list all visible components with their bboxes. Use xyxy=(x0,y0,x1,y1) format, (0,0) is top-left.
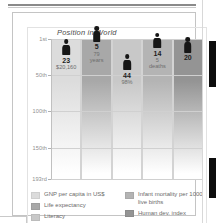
marker-label-life-expectancy: 579years xyxy=(90,43,104,63)
scrollbar-mark-upper[interactable] xyxy=(209,41,216,87)
axis-tick-150th xyxy=(48,148,51,149)
axis-tick-50th xyxy=(48,75,51,76)
person-marker-human-dev-index xyxy=(184,37,192,53)
top-divider-rule-secondary xyxy=(8,7,196,8)
marker-value-life-expectancy-2: years xyxy=(90,57,104,63)
legend-swatch-icon xyxy=(31,214,40,221)
legend-label: GNP per capita in US$ xyxy=(44,191,105,199)
person-marker-life-expectancy xyxy=(93,26,101,42)
person-head-icon xyxy=(125,54,130,59)
legend-label: Literacy xyxy=(44,213,65,221)
marker-label-human-dev-index: 20 xyxy=(184,54,192,61)
person-head-icon xyxy=(64,39,69,44)
legend-label: Human dev. index xyxy=(138,210,186,218)
person-head-icon xyxy=(186,37,191,42)
legend-column-left: GNP per capita in US$Life expectancyLite… xyxy=(31,191,123,223)
person-body-icon xyxy=(184,42,192,53)
chart-legend: GNP per capita in US$Life expectancyLite… xyxy=(29,191,201,223)
legend-swatch-icon xyxy=(31,192,40,199)
marker-rank-infant-mortality: 14 xyxy=(149,50,166,57)
gridline-150th xyxy=(51,148,203,149)
axis-tick-193rd xyxy=(48,179,51,180)
marker-label-infant-mortality: 145deaths xyxy=(149,50,166,70)
figure-page: Position in World 1st50th100th150th193rd… xyxy=(0,0,216,223)
legend-swatch-icon xyxy=(125,192,134,199)
scrollbar-mark-lower[interactable] xyxy=(209,158,216,198)
marker-value-gnp-1: $20,160 xyxy=(56,64,76,70)
corner-rule-horizontal xyxy=(0,216,26,217)
person-marker-literacy xyxy=(123,54,131,70)
axis-tick-1st xyxy=(48,39,51,40)
person-body-icon xyxy=(154,38,162,49)
page-edge-rule xyxy=(202,0,203,223)
marker-rank-literacy: 44 xyxy=(121,72,132,79)
person-body-icon xyxy=(123,60,131,71)
legend-swatch-icon xyxy=(125,210,134,217)
legend-item-left-3[interactable]: Literacy xyxy=(31,213,123,221)
axis-tick-100th xyxy=(48,111,51,112)
axis-tick-label-50th: 50th xyxy=(36,72,47,78)
person-body-icon xyxy=(62,45,70,56)
legend-swatch-icon xyxy=(31,203,40,210)
marker-label-gnp: 23$20,160 xyxy=(56,57,76,70)
legend-item-left-1[interactable]: GNP per capita in US$ xyxy=(31,191,123,199)
figure-frame: Position in World 1st50th100th150th193rd… xyxy=(12,12,196,216)
legend-item-right-1[interactable]: Infant mortality per 1000 live births xyxy=(125,191,203,206)
legend-item-right-2[interactable]: Human dev. index xyxy=(125,210,203,218)
person-head-icon xyxy=(94,26,99,31)
legend-item-left-2[interactable]: Life expectancy xyxy=(31,202,123,210)
top-divider-rule xyxy=(8,4,196,6)
gridline-100th xyxy=(51,111,203,112)
person-head-icon xyxy=(155,33,160,38)
marker-label-literacy: 4498% xyxy=(121,72,132,85)
marker-rank-life-expectancy: 5 xyxy=(90,43,104,50)
marker-rank-gnp: 23 xyxy=(56,57,76,64)
legend-column-right: Infant mortality per 1000 live birthsHum… xyxy=(125,191,203,221)
chart-title: Position in World xyxy=(57,28,117,37)
person-body-icon xyxy=(93,31,101,42)
y-axis-line xyxy=(51,39,52,179)
person-marker-gnp xyxy=(62,39,70,55)
legend-label: Life expectancy xyxy=(44,202,86,210)
axis-tick-label-100th: 100th xyxy=(33,108,48,114)
chart-plot-area: 1st50th100th150th193rd 23$20,160579years… xyxy=(51,39,203,179)
axis-tick-label-150th: 150th xyxy=(33,145,48,151)
corner-rule-vertical xyxy=(26,216,27,223)
marker-value-literacy-1: 98% xyxy=(121,79,132,85)
gridline-1st xyxy=(51,39,203,40)
person-marker-infant-mortality xyxy=(154,33,162,49)
marker-value-infant-mortality-2: deaths xyxy=(149,63,166,69)
axis-tick-label-193rd: 193rd xyxy=(32,176,47,182)
legend-label: Infant mortality per 1000 live births xyxy=(138,191,203,206)
gridline-193rd xyxy=(51,179,203,180)
marker-rank-human-dev-index: 20 xyxy=(184,54,192,61)
axis-tick-label-1st: 1st xyxy=(39,36,47,42)
